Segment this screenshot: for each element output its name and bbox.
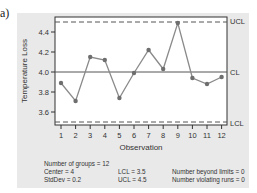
data-point [146,48,150,52]
stat-ucl: UCL = 4.5 [118,176,147,184]
lcl-label: LCL [230,119,244,128]
stat-violating-runs: Number violating runs = 0 [172,176,245,184]
data-point [73,99,77,103]
data-point [103,58,107,62]
x-tick-label: 8 [161,131,165,140]
control-chart: 3.63.84.04.24.4 123456789101112 Temperat… [0,0,257,193]
y-tick-label: 3.8 [39,88,49,97]
y-tick-label: 4.0 [39,68,49,77]
y-axis-label: Temperature Loss [20,39,29,103]
data-point [176,21,180,25]
y-tick-label: 3.6 [39,108,49,117]
x-tick-label: 10 [188,131,196,140]
stat-stddev: StdDev = 0.2 [44,176,81,184]
data-point [219,75,223,79]
data-point [205,82,209,86]
x-tick-label: 1 [59,131,63,140]
y-axis: 3.63.84.04.24.4 [39,28,55,117]
data-point [190,76,194,80]
plot-area [55,17,227,125]
ucl-label: UCL [230,17,245,26]
x-tick-label: 5 [117,131,121,140]
data-point [117,96,121,100]
x-tick-label: 4 [103,131,107,140]
y-tick-label: 4.2 [39,48,49,57]
data-point [59,81,63,85]
y-tick-label: 4.4 [39,28,49,37]
data-point [88,55,92,59]
x-axis: 123456789101112 [59,125,226,140]
x-tick-label: 9 [176,131,180,140]
x-tick-label: 2 [74,131,78,140]
cl-label: CL [230,68,240,77]
x-tick-label: 6 [132,131,136,140]
x-tick-label: 3 [88,131,92,140]
x-tick-label: 12 [217,131,225,140]
x-axis-label: Observation [119,143,162,152]
data-point [132,71,136,75]
x-tick-label: 7 [147,131,151,140]
data-point [161,67,165,71]
x-tick-label: 11 [203,131,211,140]
